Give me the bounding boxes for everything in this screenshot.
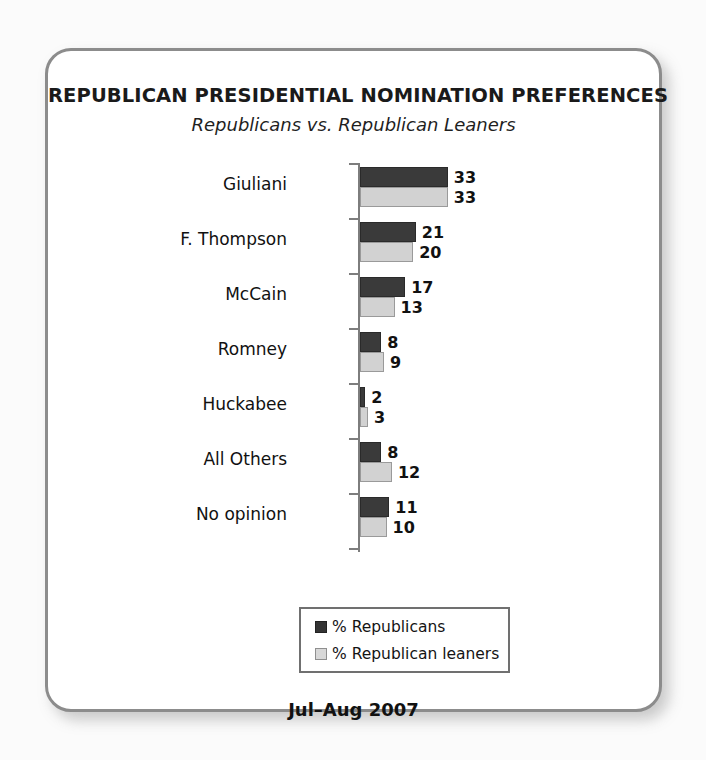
bar [360,387,365,407]
chart-frame: REPUBLICAN PRESIDENTIAL NOMINATION PREFE… [45,48,662,712]
bar [360,332,381,352]
legend-swatch-republicans [315,621,327,633]
title-block: REPUBLICAN PRESIDENTIAL NOMINATION PREFE… [48,84,659,135]
legend-label-republican-leaners: % Republican leaners [332,645,499,663]
category-group: Huckabee23 [48,381,659,436]
chart-subtitle: Republicans vs. Republican Leaners [48,114,659,135]
chart-title: REPUBLICAN PRESIDENTIAL NOMINATION PREFE… [48,84,659,107]
bar-value-label: 11 [395,498,417,517]
footer-date: Jul–Aug 2007 [48,699,659,720]
bar-value-label: 8 [387,333,398,352]
bar-value-label: 9 [390,353,401,372]
category-group: F. Thompson2120 [48,216,659,271]
category-label: No opinion [196,504,287,524]
axis-tick [349,548,360,550]
category-label: Giuliani [223,174,287,194]
category-group: No opinion1110 [48,491,659,546]
chart-legend: % Republicans % Republican leaners [299,607,510,673]
category-label: McCain [225,284,287,304]
category-group: Romney89 [48,326,659,381]
bar-value-label: 17 [411,278,433,297]
category-group: Giuliani3333 [48,161,659,216]
bar-value-label: 21 [422,223,444,242]
legend-label-republicans: % Republicans [332,618,445,636]
bar [360,277,405,297]
plot-area: Giuliani3333F. Thompson2120McCain1713Rom… [48,161,659,551]
bar [360,442,381,462]
bar-value-label: 13 [401,298,423,317]
legend-swatch-republican-leaners [315,648,327,660]
bar-value-label: 3 [374,408,385,427]
bar-value-label: 33 [454,168,476,187]
bar [360,517,387,537]
bar [360,352,384,372]
legend-item-republicans: % Republicans [315,618,508,636]
bar [360,222,416,242]
category-group: All Others812 [48,436,659,491]
bar [360,497,389,517]
bar-value-label: 2 [371,388,382,407]
bar [360,242,413,262]
category-group: McCain1713 [48,271,659,326]
category-label: Romney [218,339,287,359]
category-label: F. Thompson [180,229,287,249]
bar [360,187,448,207]
category-label: All Others [203,449,287,469]
bar [360,297,395,317]
bar-value-label: 33 [454,188,476,207]
bar [360,407,368,427]
legend-item-republican-leaners: % Republican leaners [315,645,508,663]
bar [360,462,392,482]
bar-value-label: 8 [387,443,398,462]
bar-value-label: 12 [398,463,420,482]
category-label: Huckabee [202,394,287,414]
bar-value-label: 10 [393,518,415,537]
bar [360,167,448,187]
bar-value-label: 20 [419,243,441,262]
